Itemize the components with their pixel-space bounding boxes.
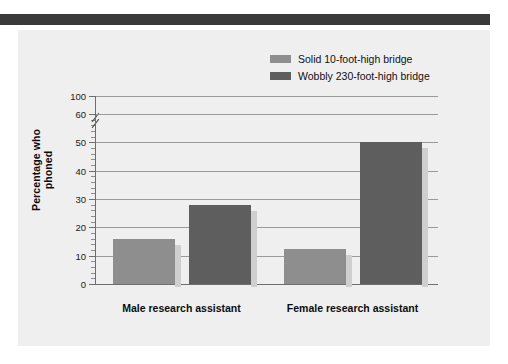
- plot-wrapper: Percentage who phoned 0102030405060100 M…: [18, 30, 490, 346]
- bar-shadow: [251, 211, 257, 287]
- x-axis-label-female: Female research assistant: [267, 302, 438, 314]
- bar-male-research-assistant-wobbly: [189, 205, 251, 284]
- gridline-60: [96, 114, 438, 115]
- y-tick-label-60: 60: [60, 110, 86, 119]
- y-tick-label-10: 10: [60, 252, 86, 261]
- bar-shadow: [346, 255, 352, 287]
- y-tick-label-20: 20: [60, 223, 86, 232]
- bar-shadow: [175, 245, 181, 287]
- y-tick-label-30: 30: [60, 195, 86, 204]
- top-rule-divider: [0, 14, 490, 25]
- gridline-100: [96, 96, 438, 97]
- bar-female-research-assistant-wobbly: [360, 142, 422, 284]
- y-tick-label-50: 50: [60, 138, 86, 147]
- y-tick-label-0: 0: [60, 280, 86, 289]
- figure-panel: Solid 10-foot-high bridge Wobbly 230-foo…: [18, 30, 490, 346]
- bar-male-research-assistant-solid: [113, 239, 175, 284]
- x-axis-label-male: Male research assistant: [96, 302, 267, 314]
- bar-female-research-assistant-solid: [284, 249, 346, 284]
- y-axis-tick-labels: 0102030405060100: [56, 30, 86, 346]
- y-tick-label-100: 100: [60, 92, 86, 101]
- plot-area: [96, 96, 438, 284]
- y-tick-label-40: 40: [60, 167, 86, 176]
- figure-page: Solid 10-foot-high bridge Wobbly 230-foo…: [0, 0, 508, 364]
- bar-shadow: [422, 148, 428, 287]
- y-axis-title: Percentage who phoned: [30, 110, 54, 230]
- x-axis-line: [95, 284, 438, 285]
